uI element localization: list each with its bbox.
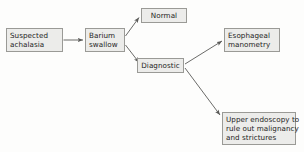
node-suspected-achalasia-line-2: achalasia <box>10 40 59 49</box>
node-esophageal-manometry-line-2: manometry <box>228 40 276 49</box>
node-upper-endoscopy-line-1: Upper endoscopy to <box>226 115 292 124</box>
flowchart-diagram: Suspected achalasia Barium swallow Norma… <box>0 0 304 152</box>
edge-diagnostic-to-endoscopy <box>185 68 220 115</box>
node-esophageal-manometry-line-1: Esophageal <box>228 31 276 40</box>
node-upper-endoscopy-line-2: rule out malignancy <box>226 124 292 133</box>
node-upper-endoscopy-line-3: and strictures <box>226 133 292 142</box>
node-normal-label: Normal <box>151 11 177 20</box>
node-esophageal-manometry: Esophageal manometry <box>224 28 280 52</box>
node-suspected-achalasia-line-1: Suspected <box>10 31 59 40</box>
node-barium-swallow-line-2: swallow <box>89 40 121 49</box>
node-diagnostic-label: Diagnostic <box>141 61 179 70</box>
edge-barium-to-normal <box>126 18 140 37</box>
node-barium-swallow-line-1: Barium <box>89 31 121 40</box>
node-normal: Normal <box>141 8 187 23</box>
node-barium-swallow: Barium swallow <box>85 28 125 52</box>
edge-diagnostic-to-manometry <box>185 41 222 64</box>
node-upper-endoscopy: Upper endoscopy to rule out malignancy a… <box>222 112 296 145</box>
node-diagnostic: Diagnostic <box>137 58 184 73</box>
node-suspected-achalasia: Suspected achalasia <box>6 28 63 52</box>
